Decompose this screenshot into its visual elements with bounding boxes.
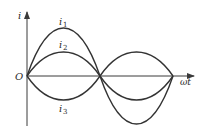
origin-label: O xyxy=(15,71,23,82)
curve-label-i2-main: i xyxy=(59,39,62,50)
curve-label-i1-sub: 1 xyxy=(63,21,67,29)
curve-label-i1: i 1 xyxy=(59,16,67,29)
curve-label-i3: i 3 xyxy=(59,103,67,116)
curve-label-i1-main: i xyxy=(59,16,62,27)
x-axis-label: ωt xyxy=(180,77,191,87)
y-axis-label: i xyxy=(18,10,21,21)
curve-label-i2: i 2 xyxy=(59,39,67,52)
curve-label-i2-sub: 2 xyxy=(63,44,67,52)
curve-label-i3-sub: 3 xyxy=(63,108,67,116)
waveform-diagram: i O ωt i 1 i 2 i 3 xyxy=(0,0,203,136)
curve-label-i3-main: i xyxy=(59,103,62,114)
